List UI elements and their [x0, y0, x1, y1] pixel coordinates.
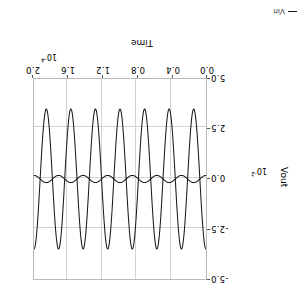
y-axis-title: Vout — [279, 167, 289, 187]
plot-inner — [34, 79, 206, 279]
y-tick-label-1: -2.5 — [211, 224, 247, 234]
x-exponent-power: -4 — [41, 57, 47, 63]
plot-area — [33, 78, 207, 280]
trace-vin — [34, 175, 206, 182]
x-axis-exponent: 10-4 — [41, 52, 57, 63]
y-tick-label-3: 2.5 — [211, 123, 247, 133]
x-tick-label-5: 2.0 — [13, 65, 53, 75]
waveform-traces — [34, 79, 206, 279]
plot-figure: Vin Time 10-4 0.0 0.4 0.8 1.2 1.6 2.0 Vo… — [0, 0, 303, 299]
y-tick-mark-0 — [207, 279, 210, 280]
x-exponent-base: 10 — [47, 52, 57, 61]
y-tick-mark-4 — [207, 78, 210, 79]
y-tick-label-2: 0.0 — [211, 173, 247, 183]
y-tick-mark-1 — [207, 229, 210, 230]
x-tick-label-2: 0.8 — [118, 65, 158, 75]
x-tick-label-1: 0.4 — [153, 65, 193, 75]
y-tick-label-4: 5.0 — [211, 73, 247, 83]
x-tick-label-4: 1.6 — [48, 65, 88, 75]
y-tick-label-0: -5.0 — [211, 274, 247, 284]
x-tick-label-3: 1.2 — [83, 65, 123, 75]
y-axis-exponent: 10-2 — [251, 166, 267, 177]
legend-label-vin: Vin — [273, 7, 285, 16]
legend-line-swatch-vin — [288, 11, 297, 12]
y-exponent-power: -2 — [251, 171, 257, 177]
x-axis-title: Time — [131, 38, 153, 48]
y-tick-mark-3 — [207, 128, 210, 129]
legend: Vin — [273, 7, 297, 16]
y-tick-mark-2 — [207, 178, 210, 179]
y-exponent-base: 10 — [257, 166, 267, 175]
trace-vout — [34, 109, 206, 249]
